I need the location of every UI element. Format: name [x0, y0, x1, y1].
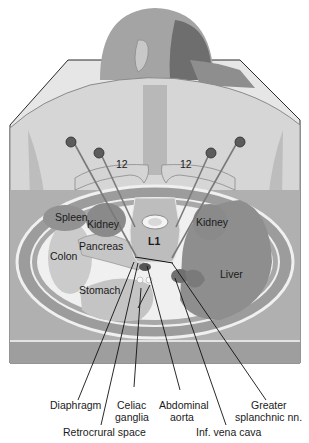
- patient-head: [100, 8, 255, 88]
- callout-retrocrural-space: Retrocrural space: [63, 426, 146, 438]
- label-liver: Liver: [220, 268, 243, 280]
- spine-groove: [143, 85, 167, 175]
- callout-celiac-line1: Celiac: [117, 399, 146, 411]
- callout-splanchnic-line2: splanchnic nn.: [235, 411, 302, 423]
- needle-hub-icon: [235, 137, 245, 147]
- callout-ivc: Inf. vena cava: [196, 426, 262, 438]
- table-surface: [10, 342, 300, 363]
- needle-hub-icon: [206, 148, 216, 158]
- callout-aorta-line1: Abdominal: [159, 399, 209, 411]
- needle-hub-icon: [66, 137, 76, 147]
- aorta: [139, 263, 151, 271]
- label-kidney-left: Kidney: [87, 218, 120, 230]
- label-rib-12-right: 12: [180, 158, 192, 170]
- vertebra-l1: [130, 198, 180, 262]
- label-colon: Colon: [50, 250, 78, 262]
- callout-splanchnic-line1: Greater: [251, 399, 287, 411]
- label-l1: L1: [148, 235, 160, 247]
- needle-hub-icon: [94, 148, 104, 158]
- label-stomach: Stomach: [79, 284, 121, 296]
- label-pancreas: Pancreas: [79, 240, 123, 252]
- anatomy-illustration: 12 12 L1 Spleen Kidney Kidney Pancreas C…: [0, 0, 309, 443]
- label-kidney-right: Kidney: [196, 216, 229, 228]
- callout-aorta-line2: aorta: [170, 411, 194, 423]
- callout-diaphragm: Diaphragm: [50, 399, 102, 411]
- callout-celiac-line2: ganglia: [115, 411, 149, 423]
- label-rib-12-left: 12: [116, 158, 128, 170]
- label-spleen: Spleen: [55, 211, 88, 223]
